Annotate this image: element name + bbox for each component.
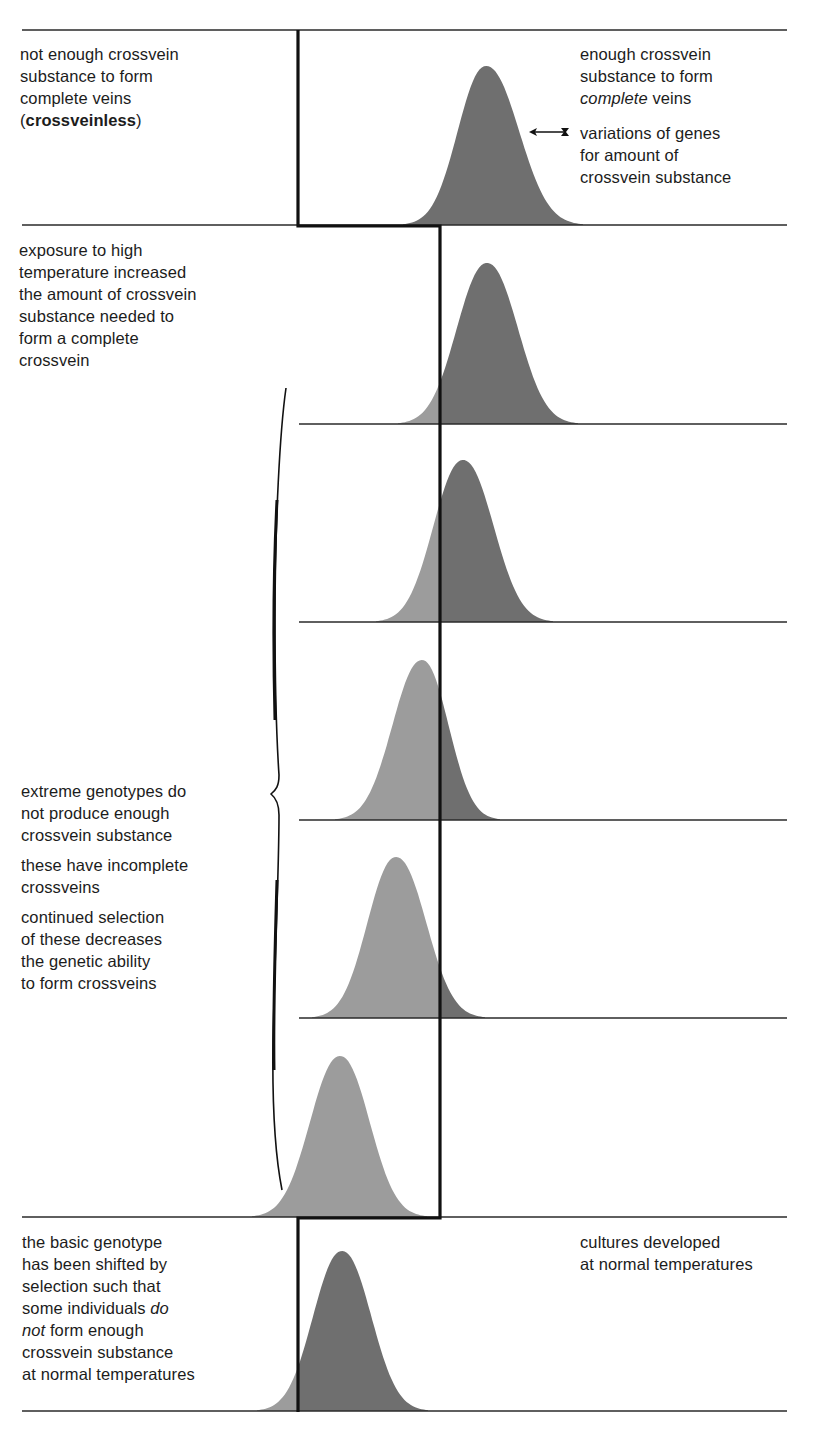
label-selection: extreme genotypes do not produce enough … <box>21 780 188 994</box>
label-line: these have incomplete <box>21 854 188 876</box>
label-high-temperature: exposure to high temperature increased t… <box>19 239 196 371</box>
label-text: form enough <box>45 1321 143 1339</box>
label-line: extreme genotypes do <box>21 780 188 802</box>
label-normal-cultures: cultures developed at normal temperature… <box>580 1231 753 1275</box>
label-line: complete veins <box>20 87 179 109</box>
label-line: enough crossvein <box>580 43 713 65</box>
curve-below-threshold-high-temperature-gen-3 <box>335 660 500 820</box>
not-term: not <box>22 1321 45 1339</box>
label-line: the amount of crossvein <box>19 283 196 305</box>
label-line: crossveins <box>21 876 188 898</box>
label-complete-veins: enough crossvein substance to form compl… <box>580 43 713 109</box>
crossveinless-term: crossveinless <box>26 111 136 129</box>
crossvein-threshold-diagram <box>0 0 814 1442</box>
label-line: not enough crossvein <box>20 43 179 65</box>
label-line: form a complete <box>19 327 196 349</box>
label-line: temperature increased <box>19 261 196 283</box>
distribution-curves <box>252 66 583 1411</box>
left-arrow-icon <box>529 128 569 136</box>
paren-close: ) <box>136 111 142 129</box>
label-line: cultures developed <box>580 1231 753 1253</box>
label-line: at normal temperatures <box>580 1253 753 1275</box>
label-line: variations of genes <box>580 122 731 144</box>
label-line: at normal temperatures <box>22 1363 195 1385</box>
label-line: complete veins <box>580 87 713 109</box>
curve-above-threshold-high-temperature-gen-2 <box>376 460 553 622</box>
label-line: crossvein substance <box>580 166 731 188</box>
label-line: not form enough <box>22 1319 195 1341</box>
label-line: has been shifted by <box>22 1253 195 1275</box>
do-term: do <box>150 1299 169 1317</box>
label-line: crossvein substance <box>21 824 188 846</box>
label-line: the genetic ability <box>21 950 188 972</box>
label-line: substance to form <box>20 65 179 87</box>
label-line: (crossveinless) <box>20 109 179 131</box>
curve-below-threshold-high-temperature-gen-4 <box>312 857 485 1018</box>
curve-above-threshold-normal-temperature-start <box>403 66 583 225</box>
curly-brace-thick-lower <box>274 880 277 1070</box>
label-text: veins <box>648 89 692 107</box>
label-gene-variations: variations of genes for amount of crossv… <box>580 122 731 188</box>
label-line: substance to form <box>580 65 713 87</box>
label-line: crossvein substance <box>22 1341 195 1363</box>
label-line: for amount of <box>580 144 731 166</box>
label-line: substance needed to <box>19 305 196 327</box>
curve-above-threshold-normal-temperature-end <box>257 1251 428 1411</box>
label-line: not produce enough <box>21 802 188 824</box>
complete-term: complete <box>580 89 648 107</box>
label-line: exposure to high <box>19 239 196 261</box>
curve-below-threshold-high-temperature-gen-5 <box>252 1056 427 1217</box>
label-line: continued selection <box>21 906 188 928</box>
label-crossveinless: not enough crossvein substance to form c… <box>20 43 179 131</box>
label-line: some individuals do <box>22 1297 195 1319</box>
curve-above-threshold-high-temperature-gen-1 <box>398 263 578 424</box>
label-line: crossvein <box>19 349 196 371</box>
label-line: the basic genotype <box>22 1231 195 1253</box>
label-shifted-genotype: the basic genotype has been shifted by s… <box>22 1231 195 1385</box>
label-text: some individuals <box>22 1299 150 1317</box>
label-line: of these decreases <box>21 928 188 950</box>
label-line: to form crossveins <box>21 972 188 994</box>
label-line: selection such that <box>22 1275 195 1297</box>
